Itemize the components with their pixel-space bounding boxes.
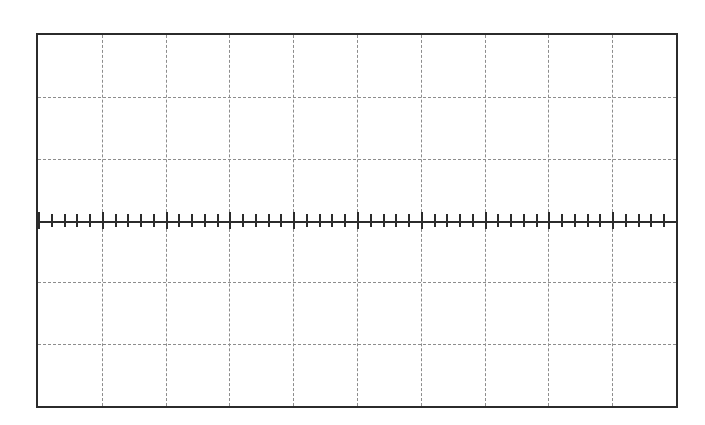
axis-tick-minor [663, 214, 665, 227]
axis-tick-major [612, 212, 614, 229]
axis-tick-minor [127, 214, 129, 227]
axis-tick-minor [510, 214, 512, 227]
axis-tick-major [293, 212, 295, 229]
axis-tick-minor [638, 214, 640, 227]
axis-tick-minor [370, 214, 372, 227]
axis-tick-minor [331, 214, 333, 227]
axis-tick-minor [89, 214, 91, 227]
axis-tick-minor [242, 214, 244, 227]
axis-tick-minor [561, 214, 563, 227]
axis-tick-minor [178, 214, 180, 227]
horizontal-gridlines [38, 35, 676, 406]
axis-tick-major [229, 212, 231, 229]
vertical-gridlines [38, 35, 676, 406]
axis-tick-minor [587, 214, 589, 227]
axis-tick-major [166, 212, 168, 229]
axis-tick-minor [408, 214, 410, 227]
axis-tick-minor [306, 214, 308, 227]
center-axis-line [38, 221, 676, 223]
axis-tick-minor [51, 214, 53, 227]
axis-tick-minor [523, 214, 525, 227]
horizontal-gridline [38, 159, 676, 160]
vertical-gridline [421, 35, 422, 406]
axis-tick-minor [383, 214, 385, 227]
axis-tick-minor [459, 214, 461, 227]
axis-tick-minor [599, 214, 601, 227]
axis-tick-minor [434, 214, 436, 227]
axis-tick-minor [255, 214, 257, 227]
screenshot-root [0, 0, 705, 425]
axis-tick-major [548, 212, 550, 229]
axis-tick-major [485, 212, 487, 229]
axis-tick-minor [140, 214, 142, 227]
axis-tick-major [421, 212, 423, 229]
vertical-gridline [548, 35, 549, 406]
axis-tick-minor [536, 214, 538, 227]
vertical-gridline [293, 35, 294, 406]
axis-tick-minor [217, 214, 219, 227]
axis-tick-major [676, 212, 678, 229]
axis-tick-minor [204, 214, 206, 227]
axis-tick-minor [280, 214, 282, 227]
axis-tick-minor [395, 214, 397, 227]
axis-tick-minor [191, 214, 193, 227]
axis-tick-minor [497, 214, 499, 227]
axis-tick-minor [625, 214, 627, 227]
axis-tick-minor [115, 214, 117, 227]
axis-tick-minor [319, 214, 321, 227]
vertical-gridline [357, 35, 358, 406]
axis-tick-minor [344, 214, 346, 227]
axis-tick-minor [64, 214, 66, 227]
axis-tick-minor [650, 214, 652, 227]
axis-tick-minor [574, 214, 576, 227]
vertical-gridline [102, 35, 103, 406]
axis-tick-minor [153, 214, 155, 227]
axis-tick-minor [268, 214, 270, 227]
axis-tick-major [38, 212, 40, 229]
axis-tick-minor [472, 214, 474, 227]
axis-tick-minor [446, 214, 448, 227]
vertical-gridline [166, 35, 167, 406]
axis-tick-minor [76, 214, 78, 227]
center-axis [38, 35, 676, 406]
oscilloscope-graticule [36, 33, 678, 408]
axis-tick-major [357, 212, 359, 229]
vertical-gridline [485, 35, 486, 406]
horizontal-gridline [38, 344, 676, 345]
vertical-gridline [229, 35, 230, 406]
horizontal-gridline [38, 97, 676, 98]
vertical-gridline [612, 35, 613, 406]
horizontal-gridline [38, 282, 676, 283]
axis-tick-major [102, 212, 104, 229]
